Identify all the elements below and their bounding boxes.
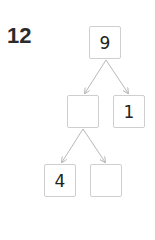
- level1-right-box: 1: [113, 95, 145, 128]
- level1-left-box[interactable]: [67, 95, 99, 128]
- arrow-mid-to-right: [83, 129, 105, 162]
- level2-right-box[interactable]: [90, 164, 122, 197]
- root-box: 9: [89, 26, 121, 59]
- level2-left-box: 4: [44, 164, 76, 197]
- arrow-root-to-right: [106, 60, 128, 93]
- arrow-mid-to-left: [62, 129, 83, 162]
- arrow-root-to-left: [85, 60, 106, 93]
